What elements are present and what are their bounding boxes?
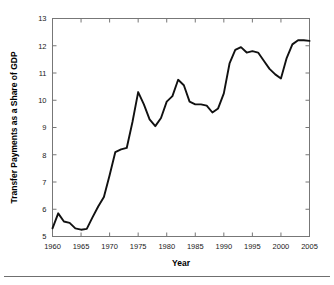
x-tick-label: 1980: [158, 242, 175, 251]
y-tick-label: 11: [39, 69, 47, 78]
y-axis-label: Transfer Payments as a Share of GDP: [9, 51, 19, 203]
x-tick-label: 1990: [215, 242, 232, 251]
y-tick-label: 10: [38, 96, 46, 105]
x-tick-label: 1970: [101, 242, 118, 251]
y-tick-label: 6: [42, 205, 46, 214]
chart-figure: 5678910111213 19601965197019751980198519…: [0, 0, 334, 285]
x-tick-label: 2000: [273, 242, 290, 251]
y-tick-label: 7: [42, 178, 46, 187]
x-tick-label: 1995: [244, 242, 261, 251]
x-tick-label: 2005: [301, 242, 318, 251]
y-tick-label: 5: [42, 232, 46, 241]
line-chart-svg: 5678910111213 19601965197019751980198519…: [0, 0, 334, 285]
y-tick-label: 13: [38, 14, 46, 23]
y-tick-label: 12: [38, 42, 46, 51]
x-tick-label: 1965: [73, 242, 90, 251]
x-tick-label: 1985: [187, 242, 204, 251]
bottom-divider-rule: [4, 276, 330, 277]
x-tick-label: 1960: [44, 242, 61, 251]
y-tick-label: 8: [42, 151, 46, 160]
y-tick-label: 9: [42, 123, 46, 132]
x-axis-label: Year: [172, 258, 191, 268]
x-tick-label: 1975: [130, 242, 147, 251]
